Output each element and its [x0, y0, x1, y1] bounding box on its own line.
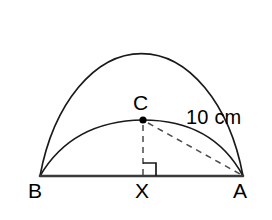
measure-label-ca: 10 cm — [186, 107, 241, 127]
chord-segment-ca — [148, 123, 240, 174]
point-label-b: B — [28, 180, 42, 201]
vertex-dot-c — [139, 116, 146, 123]
point-label-a: A — [233, 180, 247, 201]
right-angle-marker — [143, 163, 156, 176]
point-label-x: X — [135, 180, 149, 201]
point-label-c: C — [133, 92, 148, 113]
geometry-figure: C B X A 10 cm — [0, 0, 272, 220]
small-arc-bca — [40, 120, 243, 176]
